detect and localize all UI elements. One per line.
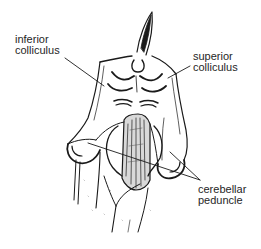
- label-superior-colliculus: superior colliculus: [193, 51, 238, 73]
- label-inferior-colliculus: inferior colliculus: [15, 34, 60, 56]
- central-column: [122, 114, 150, 190]
- brainstem-diagram: inferior colliculus superior colliculus …: [0, 0, 261, 249]
- trochlear-ridges: [114, 100, 158, 107]
- label-line: colliculus: [193, 62, 238, 73]
- colliculi: [108, 60, 166, 92]
- label-line: colliculus: [15, 45, 60, 56]
- label-cerebellar-peduncle: cerebellar peduncle: [198, 184, 246, 206]
- left-peduncle: [67, 122, 124, 204]
- pineal-gland: [137, 12, 152, 55]
- label-line: peduncle: [198, 195, 246, 206]
